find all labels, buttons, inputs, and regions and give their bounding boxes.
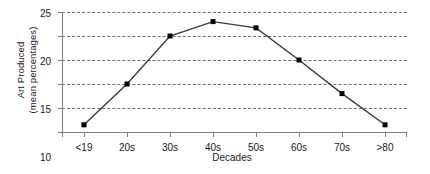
y-axis-title-line-1: Art Produced bbox=[15, 42, 26, 99]
x-tick-mark bbox=[170, 132, 171, 137]
x-axis-end-tick bbox=[406, 132, 407, 137]
plot-area: 0510152025 <1920s30s40s50s60s70s>80 bbox=[62, 12, 407, 132]
x-axis-end-tick bbox=[62, 132, 63, 137]
series-markers bbox=[82, 19, 388, 127]
x-axis-title: Decades bbox=[57, 152, 407, 163]
x-tick-mark bbox=[256, 132, 257, 137]
x-tick-mark bbox=[342, 132, 343, 137]
y-axis-title-line-2: (mean percentages) bbox=[27, 27, 38, 114]
data-point-marker bbox=[125, 82, 130, 87]
x-tick-mark bbox=[385, 132, 386, 137]
y-tick-label: 25 bbox=[40, 8, 51, 19]
x-axis-line bbox=[62, 132, 407, 133]
y-tick-label: 10 bbox=[40, 152, 51, 163]
y-tick-label: 15 bbox=[40, 104, 51, 115]
data-point-marker bbox=[383, 122, 388, 127]
data-series-line bbox=[62, 12, 407, 132]
chart-figure: Art Produced (mean percentages) 05101520… bbox=[0, 0, 430, 174]
series-polyline bbox=[84, 22, 385, 125]
data-point-marker bbox=[297, 58, 302, 63]
x-tick-mark bbox=[299, 132, 300, 137]
data-point-marker bbox=[168, 34, 173, 39]
y-axis-title: Art Produced (mean percentages) bbox=[0, 0, 52, 140]
x-tick-mark bbox=[213, 132, 214, 137]
x-tick-mark bbox=[84, 132, 85, 137]
data-point-marker bbox=[82, 122, 87, 127]
data-point-marker bbox=[254, 25, 259, 30]
y-tick-label: 20 bbox=[40, 56, 51, 67]
data-point-marker bbox=[211, 19, 216, 24]
data-point-marker bbox=[340, 91, 345, 96]
x-tick-mark bbox=[127, 132, 128, 137]
